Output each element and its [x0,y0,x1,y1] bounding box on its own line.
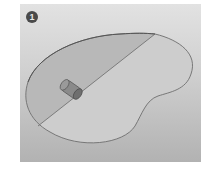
diagram-scene [20,4,201,162]
figure-panel: 1 [20,4,201,162]
